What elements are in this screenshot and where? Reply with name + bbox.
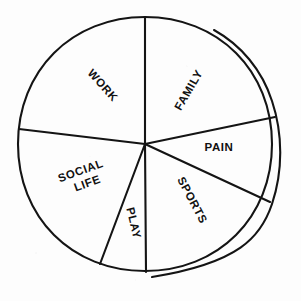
slice-label-work: WORK [86,67,121,104]
life-balance-wheel-figure: WORK FAMILY PAIN SPORTS PLAY SOCIAL LIFE [0,0,301,301]
slice-label-play: PLAY [124,206,143,240]
slice-label-family-line-1: FAMILY [172,68,205,113]
slice-label-play-line-1: PLAY [124,206,143,240]
slice-label-family: FAMILY [172,68,205,113]
slice-label-sports-line-1: SPORTS [175,175,209,226]
wheel-secondary-rim-arc [152,30,280,277]
slice-label-pain: PAIN [204,141,233,153]
slice-label-sports: SPORTS [175,175,209,226]
divider-sports-play [145,144,146,272]
slice-label-pain-line-1: PAIN [204,141,233,153]
slice-label-social-life: SOCIAL LIFE [56,157,109,198]
divider-social-life-work [19,129,145,144]
slice-label-work-line-1: WORK [86,67,121,104]
divider-play-social-life [100,144,145,264]
divider-family-pain [145,117,275,144]
